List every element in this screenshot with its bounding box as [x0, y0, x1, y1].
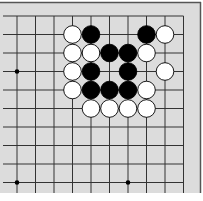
black-stone — [101, 44, 119, 62]
star-point-icon — [15, 69, 20, 74]
white-stone — [119, 100, 137, 118]
black-stone — [82, 81, 100, 99]
black-stone — [101, 81, 119, 99]
white-stone — [64, 81, 82, 99]
go-board — [0, 0, 203, 201]
star-point-icon — [126, 180, 131, 185]
white-stone — [138, 44, 156, 62]
black-stone — [119, 81, 137, 99]
white-stone — [82, 100, 100, 118]
black-stone — [82, 63, 100, 81]
black-stone — [138, 26, 156, 44]
white-stone — [64, 26, 82, 44]
white-stone — [156, 26, 174, 44]
black-stone — [119, 44, 137, 62]
white-stone — [82, 44, 100, 62]
star-point-icon — [15, 180, 20, 185]
white-stone — [138, 81, 156, 99]
black-stone — [82, 26, 100, 44]
white-stone — [156, 63, 174, 81]
black-stone — [119, 63, 137, 81]
white-stone — [101, 100, 119, 118]
white-stone — [138, 100, 156, 118]
white-stone — [64, 44, 82, 62]
white-stone — [64, 63, 82, 81]
